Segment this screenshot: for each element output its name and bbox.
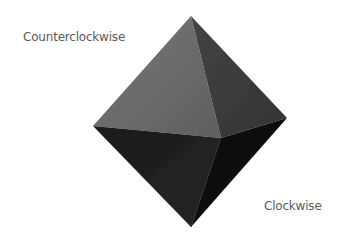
clockwise-label: Clockwise (264, 199, 322, 213)
